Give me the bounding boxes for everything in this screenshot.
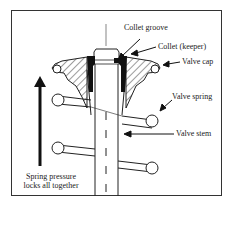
label-valve-stem: Valve stem xyxy=(176,130,211,138)
caption-line-2: locks all together xyxy=(14,181,88,190)
caption-line-1: Spring pressure xyxy=(14,172,88,181)
label-valve-cap: Valve cap xyxy=(182,58,213,66)
spring-pressure-arrow-icon xyxy=(34,76,46,166)
valve-stem xyxy=(95,64,118,196)
label-collet-keeper: Collet (keeper) xyxy=(158,43,206,51)
valve-cap xyxy=(52,57,160,115)
label-valve-spring: Valve spring xyxy=(172,93,212,101)
label-collet-groove: Collet groove xyxy=(124,24,168,32)
caption-spring-pressure: Spring pressure locks all together xyxy=(14,172,88,190)
